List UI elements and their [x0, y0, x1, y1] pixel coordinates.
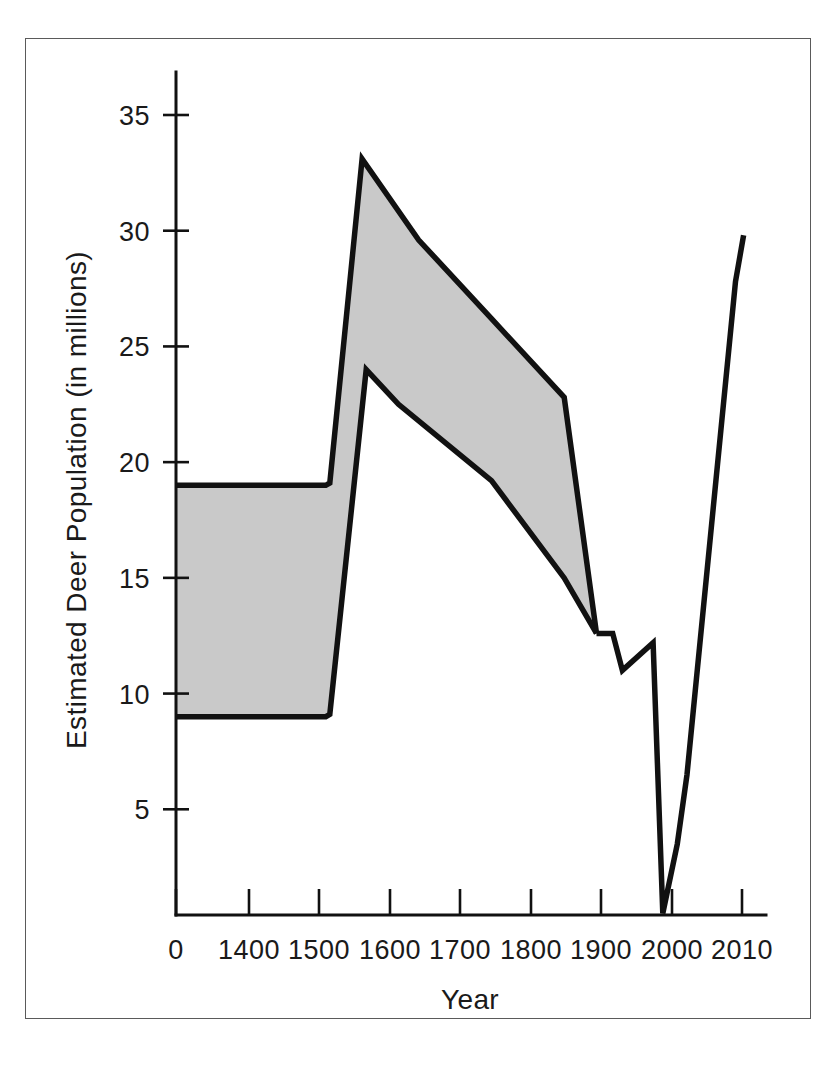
y-tick-label: 10	[119, 680, 150, 710]
x-tick-label: 1400	[218, 935, 280, 965]
estimate-band-fill	[176, 159, 597, 717]
x-tick-label: 2000	[641, 935, 703, 965]
figure-container: 5101520253035 01400150016001700180019002…	[0, 0, 837, 1084]
y-axis-tick-labels: 5101520253035	[119, 101, 150, 825]
y-tick-label: 5	[134, 795, 150, 825]
chart-plot-area: 5101520253035 01400150016001700180019002…	[0, 0, 837, 1084]
x-tick-label: 2010	[711, 935, 773, 965]
y-tick-label: 35	[119, 101, 150, 131]
y-axis-title: Estimated Deer Population (in millions)	[61, 251, 92, 749]
x-tick-label: 1800	[500, 935, 562, 965]
x-axis-title: Year	[441, 984, 499, 1015]
population-line	[597, 235, 744, 913]
x-tick-label: 1600	[359, 935, 421, 965]
x-axis-tick-labels: 014001500160017001800190020002010	[168, 935, 773, 965]
y-tick-label: 25	[119, 332, 150, 362]
y-tick-label: 30	[119, 217, 150, 247]
y-tick-label: 20	[119, 448, 150, 478]
y-tick-label: 15	[119, 564, 150, 594]
x-tick-label: 1700	[429, 935, 491, 965]
x-tick-label: 0	[168, 935, 184, 965]
x-axis-ticks	[176, 889, 742, 915]
x-tick-label: 1500	[288, 935, 350, 965]
x-tick-label: 1900	[570, 935, 632, 965]
